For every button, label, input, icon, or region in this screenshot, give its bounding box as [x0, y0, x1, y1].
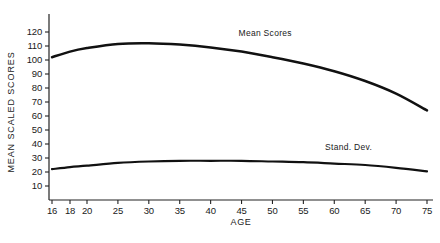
- y-tick-label: 10: [32, 180, 42, 191]
- series-annotation-stand-dev: Stand. Dev.: [325, 142, 372, 152]
- x-tick-label: 50: [267, 205, 277, 216]
- x-tick-label: 65: [360, 205, 370, 216]
- y-tick-label: 20: [32, 166, 42, 177]
- y-tick-label: 120: [27, 26, 42, 37]
- y-tick-label: 50: [32, 124, 42, 135]
- chart-figure: MEAN SCALED SCORES 102030405060708090100…: [0, 0, 440, 243]
- x-tick-label: 25: [113, 205, 123, 216]
- series-line-stand-dev: [52, 161, 427, 172]
- x-tick-label: 16: [47, 205, 57, 216]
- x-tick-label: 20: [82, 205, 92, 216]
- y-axis-ticks: 102030405060708090100110120: [27, 26, 49, 191]
- x-tick-label: 30: [144, 205, 154, 216]
- x-tick-label: 70: [391, 205, 401, 216]
- y-tick-label: 70: [32, 96, 42, 107]
- y-tick-label: 60: [32, 110, 42, 121]
- y-tick-label: 100: [27, 54, 42, 65]
- x-axis-title: AGE: [230, 217, 251, 227]
- x-tick-label: 45: [236, 205, 246, 216]
- line-chart: MEAN SCALED SCORES 102030405060708090100…: [0, 0, 440, 243]
- y-tick-label: 90: [32, 68, 42, 79]
- x-axis-ticks: 1618202530354045505560657075: [47, 200, 432, 216]
- x-tick-label: 75: [422, 205, 432, 216]
- x-tick-label: 40: [206, 205, 216, 216]
- y-axis-title: MEAN SCALED SCORES: [6, 51, 16, 172]
- series-line-mean-scores: [52, 43, 427, 110]
- y-tick-label: 30: [32, 152, 42, 163]
- x-tick-label: 35: [175, 205, 185, 216]
- x-tick-label: 18: [65, 205, 75, 216]
- x-tick-label: 55: [298, 205, 308, 216]
- y-tick-label: 80: [32, 82, 42, 93]
- x-tick-label: 60: [329, 205, 339, 216]
- y-tick-label: 110: [27, 40, 42, 51]
- y-tick-label: 40: [32, 138, 42, 149]
- series-annotation-mean-scores: Mean Scores: [239, 28, 292, 38]
